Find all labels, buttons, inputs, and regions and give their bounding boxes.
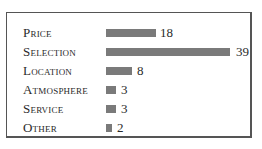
chart-row-atmosphere: Atmosphere 3	[7, 81, 250, 99]
value-label: 3	[121, 100, 128, 118]
value-label: 39	[236, 43, 249, 61]
category-label: Location	[23, 62, 72, 80]
bar-selection	[106, 48, 230, 56]
chart-row-price: Price 18	[7, 24, 250, 42]
chart-row-location: Location 8	[7, 62, 250, 80]
chart-frame: Price 18 Selection 39 Location 8 Atmosph…	[6, 12, 252, 138]
category-label: Price	[23, 24, 52, 42]
bar-price	[106, 29, 156, 37]
chart-row-selection: Selection 39	[7, 43, 250, 61]
bar-atmosphere	[106, 86, 116, 94]
value-label: 3	[121, 81, 128, 99]
chart-row-service: Service 3	[7, 100, 250, 118]
category-label: Atmosphere	[23, 81, 88, 99]
bar-service	[106, 105, 116, 113]
bar-other	[106, 124, 112, 132]
category-label: Selection	[23, 43, 76, 61]
value-label: 2	[117, 119, 124, 137]
value-label: 8	[137, 62, 144, 80]
chart-row-other: Other 2	[7, 119, 250, 137]
bar-location	[106, 67, 132, 75]
category-label: Service	[23, 100, 63, 118]
value-label: 18	[160, 24, 173, 42]
category-label: Other	[23, 119, 57, 137]
